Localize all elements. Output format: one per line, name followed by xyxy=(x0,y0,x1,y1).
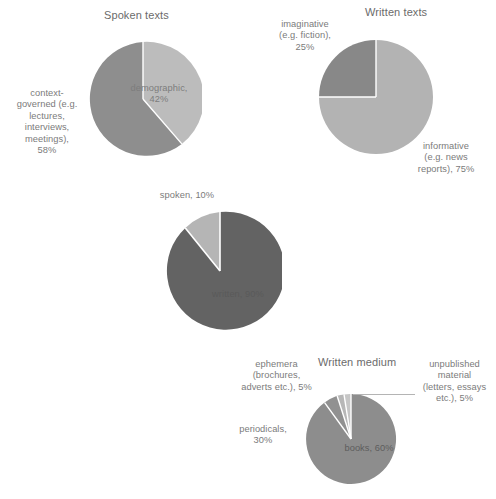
chart-title-written-texts: Written texts xyxy=(365,6,427,18)
pie-label-informative: informative (e.g. news reports), 75% xyxy=(403,141,489,175)
pie-slice-written xyxy=(167,212,282,330)
pie-label-books: books, 60% xyxy=(333,443,405,454)
pie-label-spoken: spoken, 10% xyxy=(142,190,232,201)
leader-line-unpublished xyxy=(353,394,415,395)
pie-label-context-governed: context- governed (e.g. lectures, interv… xyxy=(8,88,86,156)
pie-spoken-written-balance xyxy=(158,209,282,333)
pie-label-demographic: demographic, 42% xyxy=(122,83,196,106)
pie-written-texts xyxy=(317,38,435,156)
pie-label-periodicals: periodicals, 30% xyxy=(224,424,302,447)
pie-label-imaginative: imaginative (e.g. fiction), 25% xyxy=(259,19,351,53)
pie-written-medium xyxy=(304,392,398,486)
pie-label-written: written, 90% xyxy=(198,289,278,300)
chart-written-medium: Written medium ephemera (brochures, adve… xyxy=(230,350,496,499)
chart-written-texts: Written texts imaginative (e.g. fiction)… xyxy=(250,0,496,190)
chart-title-spoken-texts: Spoken texts xyxy=(104,9,169,21)
figure-canvas: Spoken texts context- governed (e.g. lec… xyxy=(0,0,496,499)
pie-label-unpublished: unpublished material (letters, essays et… xyxy=(413,359,496,405)
chart-title-written-medium: Written medium xyxy=(318,356,396,368)
pie-label-ephemera: ephemera (brochures, adverts etc.), 5% xyxy=(230,359,323,393)
chart-spoken-texts: Spoken texts context- governed (e.g. lec… xyxy=(0,0,250,190)
chart-spoken-written-balance: spoken, 10% written, 90% xyxy=(120,185,360,345)
